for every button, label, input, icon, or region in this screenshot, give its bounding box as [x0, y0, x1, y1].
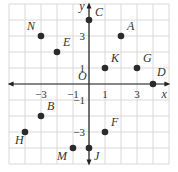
point-marker: [118, 33, 125, 40]
point-marker: [38, 33, 45, 40]
point-label: B: [47, 99, 55, 113]
point-marker: [38, 113, 45, 120]
point-label: M: [56, 149, 68, 163]
point-label: D: [156, 65, 166, 79]
point-label: C: [95, 5, 104, 19]
point-marker: [70, 145, 77, 152]
point-label: J: [94, 149, 100, 163]
point-label: H: [14, 133, 25, 147]
point-marker: [102, 129, 109, 136]
y-tick-label: −3: [73, 126, 85, 138]
y-tick-label: 3: [80, 30, 86, 42]
point-label: K: [110, 51, 120, 65]
point-marker: [134, 65, 141, 72]
x-tick-label: −3: [35, 88, 47, 100]
point-marker: [102, 65, 109, 72]
origin-label: O: [78, 69, 87, 83]
point-h: H: [14, 129, 28, 147]
tick-labels: −3−11331−1−3xyO: [35, 0, 167, 138]
x-tick-label: 1: [102, 88, 108, 100]
point-label: G: [143, 51, 152, 65]
point-label: A: [126, 19, 135, 33]
point-label: N: [26, 19, 36, 33]
point-label: F: [110, 115, 119, 129]
x-tick-label: 3: [134, 88, 140, 100]
y-tick-label: −1: [73, 94, 85, 106]
point-marker: [86, 17, 93, 24]
y-axis-label: y: [78, 0, 85, 13]
point-marker: [54, 49, 61, 56]
point-marker: [150, 81, 157, 88]
point-marker: [86, 145, 93, 152]
x-axis-label: x: [161, 87, 168, 101]
coordinate-plane: −3−11331−1−3xyO ABCDEFGHJKMN: [0, 0, 178, 172]
point-label: E: [62, 35, 71, 49]
